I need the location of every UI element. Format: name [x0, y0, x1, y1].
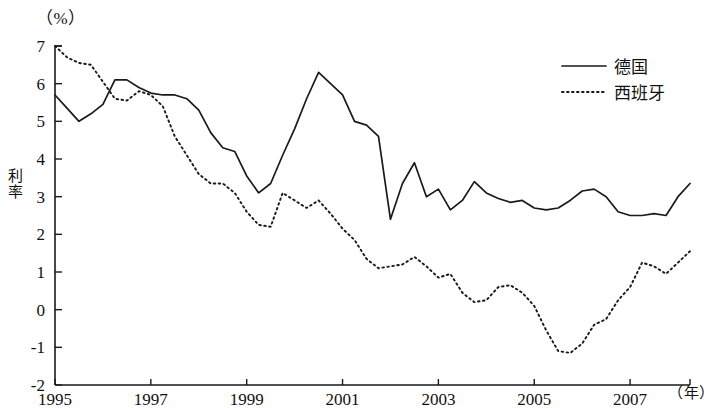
- x-axis-tick-label: 2007: [613, 390, 648, 408]
- x-axis-tick-label: 1999: [230, 390, 264, 408]
- chart-legend: 德国西班牙: [562, 58, 665, 103]
- y-axis-tick-group: 76543210-1-2: [31, 37, 62, 395]
- y-axis-tick-label: 4: [37, 150, 46, 169]
- y-axis-tick-label: 2: [37, 225, 46, 244]
- x-axis-tick-label: 1997: [134, 390, 169, 408]
- y-axis-tick-label: 5: [37, 112, 46, 131]
- y-axis-tick-label: -1: [31, 338, 45, 357]
- x-axis-tick-label: 2001: [326, 390, 360, 408]
- legend-label: 西班牙: [614, 84, 665, 103]
- y-axis-tick-label: 6: [37, 75, 46, 94]
- y-axis-tick-label: 0: [37, 301, 46, 320]
- x-axis-tick-label: 2005: [517, 390, 551, 408]
- chart-plot-area: 76543210-1-2 199519971999200120032005200…: [0, 0, 725, 408]
- y-axis-tick-label: 3: [37, 188, 46, 207]
- x-axis-tick-label: 1995: [38, 390, 72, 408]
- series-line-germany: [55, 72, 690, 219]
- y-axis-tick-label: 7: [37, 37, 46, 56]
- legend-label: 德国: [614, 58, 648, 77]
- x-axis-tick-label: 2003: [421, 390, 455, 408]
- y-axis-tick-label: 1: [37, 263, 46, 282]
- interest-rate-line-chart: （%） （年） 利率 76543210-1-2 1995199719992001…: [0, 0, 725, 408]
- x-axis-tick-group: 1995199719992001200320052007: [38, 379, 690, 408]
